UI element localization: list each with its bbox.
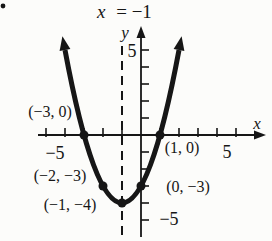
point-neg2-neg3 bbox=[99, 182, 108, 191]
point-label-neg3-0: (−3, 0) bbox=[28, 103, 72, 121]
y-axis-arrowhead-icon bbox=[137, 26, 146, 38]
axis-of-symmetry-label: x = −1 bbox=[96, 1, 152, 22]
y-axis-tick-label-5: 5 bbox=[128, 41, 137, 61]
x-axis-tick-label-neg5: −5 bbox=[45, 143, 64, 163]
y-axis-tick-label-neg5: −5 bbox=[159, 209, 178, 229]
axis-of-symmetry-value: = −1 bbox=[116, 1, 152, 22]
x-axis-label: x bbox=[252, 114, 261, 133]
x-axis-tick-label-5: 5 bbox=[223, 142, 232, 162]
parabola-graph: x = −1 y x 5 −5 −5 5 (−3, 0) (1, 0) (−2,… bbox=[0, 0, 272, 241]
axis-of-symmetry-variable: x bbox=[96, 1, 106, 22]
scanned-textbook-figure: x = −1 y x 5 −5 −5 5 (−3, 0) (1, 0) (−2,… bbox=[0, 0, 272, 241]
point-0-neg3 bbox=[137, 182, 146, 191]
point-1-0 bbox=[156, 131, 165, 140]
point-label-neg2-neg3: (−2, −3) bbox=[34, 167, 87, 185]
point-neg1-neg4 bbox=[118, 199, 127, 208]
point-label-0-neg3: (0, −3) bbox=[166, 178, 210, 196]
parabola-right-arrowhead-icon bbox=[174, 36, 185, 51]
parabola-left-arrowhead-icon bbox=[60, 36, 71, 51]
cropped-problem-number-dot bbox=[1, 4, 6, 9]
point-label-neg1-neg4: (−1, −4) bbox=[44, 196, 97, 214]
point-label-1-0: (1, 0) bbox=[165, 139, 200, 157]
point-neg3-0 bbox=[80, 131, 89, 140]
y-axis-label: y bbox=[119, 23, 129, 42]
